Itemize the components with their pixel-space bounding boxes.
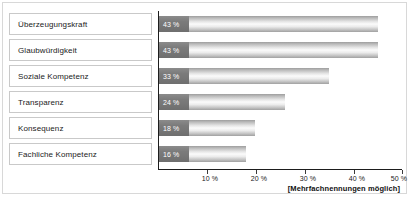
bar-value-label: 33 % (159, 73, 179, 80)
chart-annotation: [Mehrfachnennungen möglich] (288, 184, 400, 193)
chart-frame: Überzeugungskraft 43 % Glaubwürdigkeit 4… (2, 2, 407, 194)
category-label-box: Transparenz (9, 91, 152, 113)
bar-body (189, 16, 378, 32)
y-axis-line (158, 11, 159, 169)
bar-body (189, 42, 378, 58)
category-label-box: Überzeugungskraft (9, 13, 152, 35)
chart-row: Soziale Kompetenz 33 % (3, 65, 408, 87)
bar-value-segment: 33 % (159, 68, 189, 84)
bar-value-label: 18 % (159, 125, 179, 132)
bar-value-segment: 43 % (159, 42, 189, 58)
category-label-box: Soziale Kompetenz (9, 65, 152, 87)
x-axis-tick-label: 10 % (202, 175, 218, 182)
chart-row: Transparenz 24 % (3, 91, 408, 113)
category-label: Soziale Kompetenz (10, 72, 89, 81)
bar-value-segment: 24 % (159, 94, 189, 110)
x-axis-tick-label: 50 % (391, 175, 407, 182)
bar-chart-plot-area: Überzeugungskraft 43 % Glaubwürdigkeit 4… (3, 3, 408, 195)
x-axis-tick-label: 30 % (300, 175, 316, 182)
x-axis-tick-label: 20 % (251, 175, 267, 182)
category-label: Fachliche Kompetenz (10, 150, 97, 159)
chart-row: Konsequenz 18 % (3, 117, 408, 139)
chart-row: Überzeugungskraft 43 % (3, 13, 408, 35)
chart-row: Glaubwürdigkeit 43 % (3, 39, 408, 61)
bar-body (189, 94, 285, 110)
x-axis-tick (256, 170, 257, 174)
bar-value-segment: 18 % (159, 120, 189, 136)
bar-value-label: 24 % (159, 99, 179, 106)
bar-value-label: 43 % (159, 21, 179, 28)
category-label: Konsequenz (10, 124, 63, 133)
x-axis-line (158, 169, 402, 170)
x-axis-tick (354, 170, 355, 174)
x-axis-tick (402, 170, 403, 174)
category-label: Glaubwürdigkeit (10, 46, 77, 55)
bar-value-label: 43 % (159, 47, 179, 54)
bar-body (189, 120, 255, 136)
category-label: Transparenz (10, 98, 64, 107)
bar-value-segment: 43 % (159, 16, 189, 32)
bar-body (189, 146, 246, 162)
category-label-box: Glaubwürdigkeit (9, 39, 152, 61)
category-label-box: Konsequenz (9, 117, 152, 139)
x-axis-tick (207, 170, 208, 174)
category-label: Überzeugungskraft (10, 20, 87, 29)
bar-value-label: 16 % (159, 151, 179, 158)
x-axis-tick (305, 170, 306, 174)
bar-body (189, 68, 329, 84)
category-label-box: Fachliche Kompetenz (9, 143, 152, 165)
bar-value-segment: 16 % (159, 146, 189, 162)
chart-row: Fachliche Kompetenz 16 % (3, 143, 408, 165)
x-axis-tick-label: 40 % (349, 175, 365, 182)
